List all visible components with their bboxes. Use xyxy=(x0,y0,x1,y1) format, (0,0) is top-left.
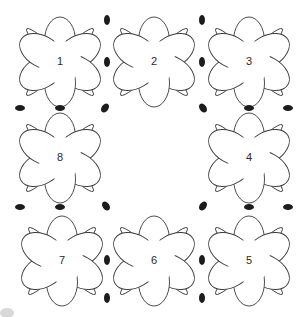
motif-label-2: 2 xyxy=(151,55,157,67)
join-bead xyxy=(199,293,205,303)
join-bead xyxy=(99,102,110,114)
join-bead xyxy=(244,105,254,111)
motif-label-7: 7 xyxy=(59,254,65,266)
motif-label-5: 5 xyxy=(246,254,252,266)
join-bead xyxy=(100,200,111,212)
join-bead xyxy=(15,105,25,111)
motif-ring-diagram: 12384765 xyxy=(0,0,307,317)
motif-label-8: 8 xyxy=(57,151,63,163)
join-bead xyxy=(283,105,293,111)
join-bead xyxy=(55,105,65,111)
join-bead xyxy=(15,204,25,210)
motif-label-6: 6 xyxy=(151,254,157,266)
join-bead xyxy=(244,204,254,210)
motif-label-4: 4 xyxy=(246,151,252,163)
join-bead xyxy=(104,255,110,265)
join-bead xyxy=(104,57,110,67)
motif-label-3: 3 xyxy=(246,55,252,67)
join-bead xyxy=(199,57,205,67)
scan-smudge xyxy=(0,308,14,317)
join-bead xyxy=(197,102,208,114)
join-bead xyxy=(104,293,110,303)
join-bead xyxy=(55,204,65,210)
join-bead xyxy=(199,15,205,25)
motif-label-1: 1 xyxy=(57,55,63,67)
join-bead xyxy=(283,204,293,210)
join-bead xyxy=(197,200,208,212)
join-bead xyxy=(104,15,110,25)
join-bead xyxy=(199,255,205,265)
diagram-canvas: 12384765 xyxy=(0,0,307,317)
scan-artifact-layer xyxy=(0,308,14,317)
